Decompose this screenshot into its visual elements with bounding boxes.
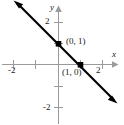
x-axis-arrowhead-icon <box>112 61 119 68</box>
y-axis-tick-label--2: -2 <box>43 103 51 112</box>
graph-figure: -2 2 2 -2 x y (0, 1) (1, 0) <box>0 0 124 125</box>
x-axis-label: x <box>112 50 116 59</box>
annotation-y-intercept: (0, 1) <box>66 37 86 46</box>
y-axis-arrowhead-icon <box>55 6 62 13</box>
line-y-equals-minus-x-plus-1 <box>17 3 114 100</box>
x-axis <box>2 60 119 69</box>
point-marker-y-intercept <box>56 41 62 47</box>
x-axis-tick-label-2: 2 <box>96 66 101 75</box>
line-arrowhead-lower-right-icon <box>108 96 118 104</box>
y-axis-label: y <box>50 3 54 12</box>
plotted-line-series <box>14 1 118 104</box>
y-axis-tick-label-2: 2 <box>45 17 50 26</box>
coordinate-plane-svg <box>0 0 124 125</box>
x-axis-tick-label--2: -2 <box>8 66 16 75</box>
annotation-x-intercept: (1, 0) <box>62 68 82 77</box>
